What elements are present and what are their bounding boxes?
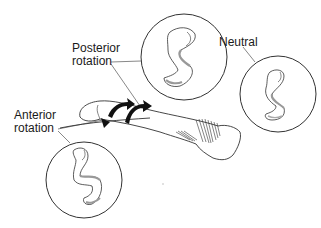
posterior-label-line2: rotation xyxy=(72,55,120,68)
posterior-rotation-inset xyxy=(141,14,227,100)
anterior-rotation-inset xyxy=(46,142,122,218)
neutral-label: Neutral xyxy=(219,36,258,49)
posterior-rotation-label: Posterior rotation xyxy=(72,42,120,68)
anterior-label-line2: rotation xyxy=(14,122,56,135)
anterior-rotation-label: Anterior rotation xyxy=(14,109,56,135)
clavicle-rotation-diagram: Posterior rotation Neutral Anterior rota… xyxy=(0,0,321,228)
neutral-inset xyxy=(240,56,316,132)
